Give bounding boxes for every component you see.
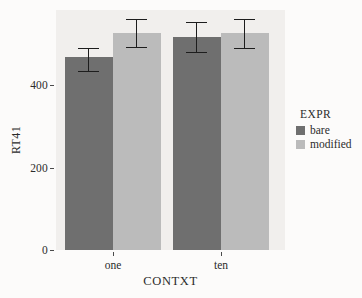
errorbar-ten-modified-cap-bottom <box>234 48 255 49</box>
errorbar-ten-bare-line <box>196 22 197 52</box>
bar-ten-bare <box>173 37 221 250</box>
x-axis-label: CONTXT <box>56 274 285 289</box>
errorbar-one-modified-cap-bottom <box>126 47 147 48</box>
y-axis-label-wrapper: RT41 <box>8 110 24 170</box>
errorbar-ten-modified-line <box>244 19 245 48</box>
ytick-mark-200 <box>50 168 54 169</box>
legend-label-modified: modified <box>310 139 352 151</box>
bar-ten-modified <box>221 33 269 250</box>
legend-item-modified: modified <box>296 138 360 151</box>
ytick-label-400: 400 <box>26 79 48 91</box>
errorbar-ten-modified-cap-top <box>234 19 255 20</box>
errorbar-ten-bare-cap-bottom <box>186 52 207 53</box>
legend-swatch-modified <box>296 140 305 149</box>
legend-item-bare: bare <box>296 124 360 137</box>
legend-title: EXPR <box>300 108 360 120</box>
ytick-label-0: 0 <box>26 244 48 256</box>
bar-chart-figure: 400 200 0 RT41 one ten CONTXT EXPR bare … <box>0 0 362 298</box>
xtick-label-ten: ten <box>201 259 241 271</box>
errorbar-one-bare-line <box>88 48 89 71</box>
errorbar-one-modified-cap-top <box>126 19 147 20</box>
legend-swatch-bare <box>296 126 305 135</box>
ytick-label-200: 200 <box>26 162 48 174</box>
errorbar-one-bare-cap-bottom <box>78 71 99 72</box>
bar-one-bare <box>65 57 113 250</box>
plot-area <box>56 10 285 250</box>
legend-label-bare: bare <box>310 125 330 137</box>
errorbar-ten-bare-cap-top <box>186 22 207 23</box>
bar-one-modified <box>113 33 161 250</box>
legend: EXPR bare modified <box>296 108 360 152</box>
xtick-mark-one <box>113 252 114 256</box>
ytick-mark-400 <box>50 85 54 86</box>
errorbar-one-bare-cap-top <box>78 48 99 49</box>
ytick-mark-0 <box>50 250 54 251</box>
errorbar-one-modified-line <box>136 19 137 47</box>
xtick-label-one: one <box>93 259 133 271</box>
xtick-mark-ten <box>221 252 222 256</box>
y-axis-label: RT41 <box>9 126 24 154</box>
